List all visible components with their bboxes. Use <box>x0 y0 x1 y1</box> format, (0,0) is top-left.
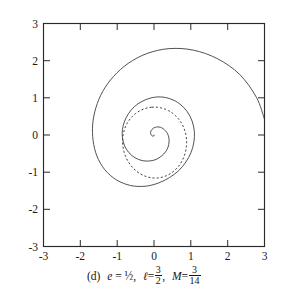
x-tick-label: -3 <box>39 250 49 262</box>
y-tick-label: 0 <box>32 129 38 141</box>
x-tick-label: 3 <box>262 250 268 262</box>
caption-e-equals: = <box>115 270 122 282</box>
x-tick-label: 1 <box>188 250 194 262</box>
x-tick-labels: -3 -2 -1 0 1 2 3 <box>39 250 268 262</box>
caption-M-equals: = <box>182 270 189 282</box>
y-tick-label: -2 <box>28 203 38 215</box>
caption-e-symbol: e <box>107 270 112 282</box>
newtonian-ellipse-curve <box>123 107 187 178</box>
panel-label: (d) <box>87 270 100 282</box>
x-tick-label: 0 <box>151 250 157 262</box>
y-tick-label: -1 <box>28 166 38 178</box>
y-tick-label: 1 <box>32 92 38 104</box>
caption-l-numerator: 3 <box>155 265 162 275</box>
caption-l-fraction: 32 <box>155 265 162 286</box>
caption-l-equals: = <box>148 270 155 282</box>
y-tick-label: -3 <box>28 241 38 253</box>
caption-e-value: ½ <box>125 270 134 282</box>
caption-M-symbol: M <box>172 270 182 282</box>
x-tick-label: -2 <box>76 250 86 262</box>
caption-M-fraction: 314 <box>189 265 201 286</box>
caption-comma-1: , <box>133 270 136 282</box>
caption-l-denominator: 2 <box>155 275 162 286</box>
x-tick-label: 2 <box>225 250 231 262</box>
caption-M-denominator: 14 <box>189 275 201 286</box>
x-tick-label: -1 <box>112 250 122 262</box>
orbit-plot: 3 2 1 0 -1 -2 -3 -3 -2 -1 0 1 2 3 <box>0 0 288 304</box>
y-tick-label: 3 <box>32 18 38 30</box>
figure-caption: (d) e = ½, ℓ=32, M=314 <box>0 265 288 286</box>
caption-M-numerator: 3 <box>189 265 201 275</box>
figure-root: 3 2 1 0 -1 -2 -3 -3 -2 -1 0 1 2 3 <box>0 0 288 304</box>
y-tick-labels: 3 2 1 0 -1 -2 -3 <box>28 18 38 253</box>
y-tick-label: 2 <box>32 55 38 67</box>
caption-comma-2: , <box>162 270 165 282</box>
